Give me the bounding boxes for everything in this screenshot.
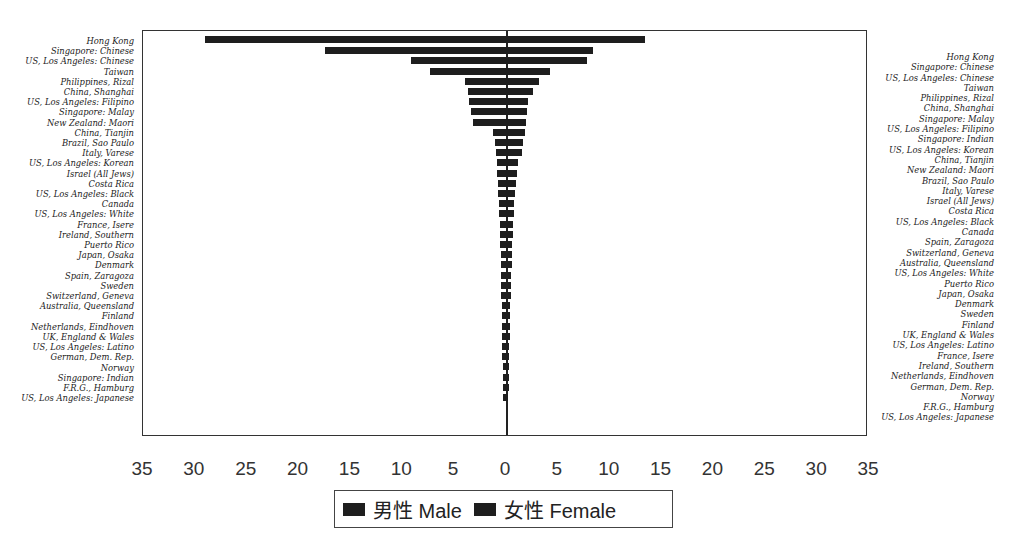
legend-female-label: 女性 Female — [504, 495, 616, 524]
female-bar — [506, 251, 512, 258]
female-category-label: US, Los Angeles: Filipino — [872, 124, 994, 134]
legend-male-label: 男性 Male — [373, 495, 462, 524]
female-bar — [506, 394, 508, 401]
male-bar — [205, 36, 506, 43]
male-category-label: Spain, Zaragoza — [0, 271, 134, 281]
female-category-labels: Hong KongSingapore: ChineseUS, Los Angel… — [872, 52, 994, 423]
male-category-label: Switzerland, Geneva — [0, 291, 134, 301]
male-category-label: UK, England & Wales — [0, 332, 134, 342]
female-category-label: New Zealand: Maori — [872, 165, 994, 175]
legend-item-male: 男性 Male — [343, 495, 462, 524]
female-category-label: Australia, Queensland — [872, 258, 994, 268]
male-category-label: US, Los Angeles: Korean — [0, 158, 134, 168]
female-bar — [506, 261, 512, 268]
male-bar — [468, 88, 506, 95]
female-category-label: China, Shanghai — [872, 103, 994, 113]
male-category-label: China, Tianjin — [0, 128, 134, 138]
female-bar — [506, 78, 539, 85]
male-bar — [497, 170, 506, 177]
female-category-label: German, Dem. Rep. — [872, 382, 994, 392]
female-category-label: Spain, Zaragoza — [872, 237, 994, 247]
male-category-label: Italy, Varese — [0, 148, 134, 158]
female-category-label: Sweden — [872, 309, 994, 319]
male-category-label: Canada — [0, 199, 134, 209]
male-bar — [495, 139, 506, 146]
female-category-label: Singapore: Chinese — [872, 62, 994, 72]
female-bar — [506, 88, 533, 95]
male-category-label: Hong Kong — [0, 36, 134, 46]
female-category-label: Philippines, Rizal — [872, 93, 994, 103]
male-category-label: Denmark — [0, 260, 134, 270]
male-bar — [411, 57, 506, 64]
male-category-label: US, Los Angeles: Chinese — [0, 56, 134, 66]
x-tick-label: 0 — [500, 458, 511, 480]
male-category-label: US, Los Angeles: White — [0, 209, 134, 219]
female-bar — [506, 302, 510, 309]
male-category-label: Norway — [0, 363, 134, 373]
x-tick-label: 30 — [806, 458, 827, 480]
female-category-label: Norway — [872, 392, 994, 402]
male-category-label: US, Los Angeles: Japanese — [0, 393, 134, 403]
male-bar — [499, 200, 506, 207]
female-category-label: Finland — [872, 320, 994, 330]
female-category-label: Israel (All Jews) — [872, 196, 994, 206]
female-bar — [506, 374, 509, 381]
female-bar — [506, 36, 645, 43]
female-bar — [506, 159, 518, 166]
female-bar — [506, 363, 509, 370]
female-bar — [506, 47, 593, 54]
female-bar — [506, 384, 509, 391]
female-category-label: US, Los Angeles: White — [872, 268, 994, 278]
male-bar — [498, 180, 506, 187]
plot-area — [142, 30, 867, 436]
female-category-label: Denmark — [872, 299, 994, 309]
x-tick-label: 10 — [391, 458, 412, 480]
female-category-label: UK, England & Wales — [872, 330, 994, 340]
male-bar — [465, 78, 506, 85]
female-bar — [506, 241, 512, 248]
male-bar — [473, 119, 506, 126]
male-category-label: Puerto Rico — [0, 240, 134, 250]
male-category-label: US, Los Angeles: Filipino — [0, 97, 134, 107]
female-category-label: China, Tianjin — [872, 155, 994, 165]
female-category-label: France, Isere — [872, 351, 994, 361]
male-bar — [496, 149, 506, 156]
female-bar — [506, 139, 523, 146]
female-bar — [506, 221, 513, 228]
female-bar — [506, 119, 526, 126]
x-tick-label: 20 — [287, 458, 308, 480]
female-category-label: Hong Kong — [872, 52, 994, 62]
female-category-label: Singapore: Malay — [872, 114, 994, 124]
male-category-label: Ireland, Southern — [0, 230, 134, 240]
male-category-label: German, Dem. Rep. — [0, 352, 134, 362]
legend: 男性 Male 女性 Female — [334, 490, 673, 528]
female-bar — [506, 98, 528, 105]
male-category-label: Costa Rica — [0, 179, 134, 189]
female-category-label: Italy, Varese — [872, 186, 994, 196]
legend-item-female: 女性 Female — [474, 495, 616, 524]
male-bar — [325, 47, 507, 54]
female-bar — [506, 190, 515, 197]
female-bar — [506, 129, 525, 136]
x-tick-label: 15 — [339, 458, 360, 480]
male-category-label: Brazil, Sao Paulo — [0, 138, 134, 148]
female-category-label: Japan, Osaka — [872, 289, 994, 299]
female-category-label: Costa Rica — [872, 206, 994, 216]
male-category-label: Singapore: Indian — [0, 373, 134, 383]
female-bar — [506, 353, 509, 360]
butterfly-bar-chart: Hong KongSingapore: ChineseUS, Los Angel… — [0, 0, 1022, 545]
male-category-labels: Hong KongSingapore: ChineseUS, Los Angel… — [0, 36, 134, 403]
male-category-label: Philippines, Rizal — [0, 77, 134, 87]
male-bar — [471, 108, 506, 115]
male-bar — [499, 210, 506, 217]
x-tick-label: 35 — [857, 458, 878, 480]
female-category-label: US, Los Angeles: Japanese — [872, 412, 994, 422]
female-bar — [506, 68, 550, 75]
female-category-label: US, Los Angeles: Korean — [872, 145, 994, 155]
female-bar — [506, 323, 510, 330]
male-category-label: F.R.G., Hamburg — [0, 383, 134, 393]
x-tick-label: 20 — [702, 458, 723, 480]
female-category-label: US, Los Angeles: Latino — [872, 340, 994, 350]
x-axis-ticks: 353025201510505101520253035 — [0, 458, 1022, 482]
female-category-label: Brazil, Sao Paulo — [872, 176, 994, 186]
